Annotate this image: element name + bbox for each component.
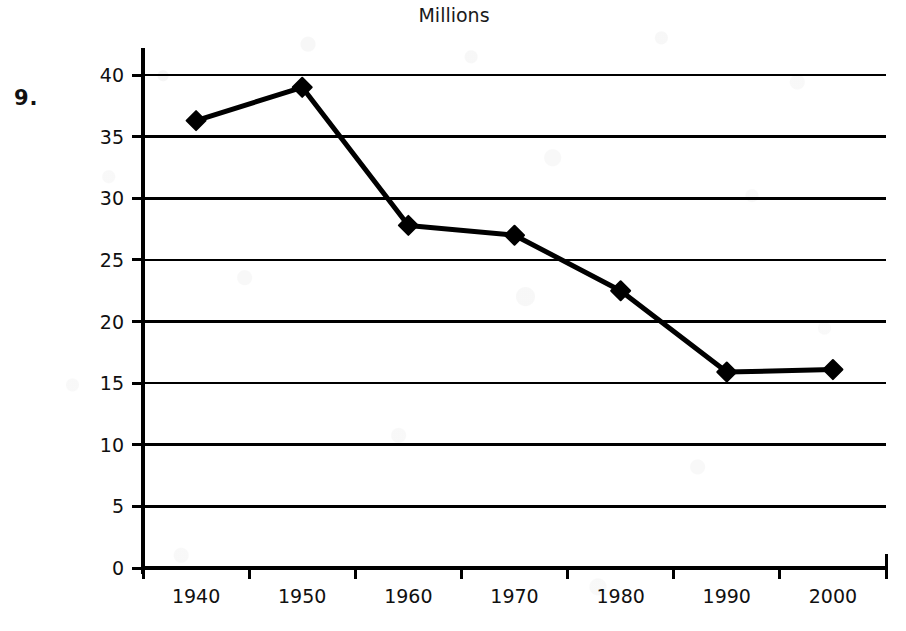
x-axis-tick-label: 1960: [363, 585, 453, 607]
x-axis-tick-label: 1940: [151, 585, 241, 607]
data-marker-1970: [505, 226, 524, 245]
y-axis-tick-label: 40: [78, 64, 124, 86]
x-axis-tick-label: 2000: [788, 585, 878, 607]
line-chart-figure: 0510152025303540 19401950196019701980199…: [0, 0, 906, 631]
data-marker-1940: [187, 111, 206, 130]
y-axis-tick-label: 0: [78, 557, 124, 579]
y-axis-tick-label: 25: [78, 249, 124, 271]
y-axis-tick-label: 15: [78, 372, 124, 394]
gridlines-group: [143, 75, 886, 568]
y-axis-tick-label: 5: [78, 495, 124, 517]
x-axis-tick-label: 1970: [470, 585, 560, 607]
y-axis-group: [132, 48, 143, 574]
y-axis-tick-label: 35: [78, 126, 124, 148]
data-marker-2000: [823, 360, 842, 379]
chart-plot-svg: [0, 0, 906, 631]
x-axis-tick-label: 1990: [682, 585, 772, 607]
x-axis-tick-label: 1980: [576, 585, 666, 607]
y-axis-tick-label: 20: [78, 311, 124, 333]
data-markers-group: [187, 78, 843, 382]
y-axis-tick-label: 30: [78, 187, 124, 209]
x-axis-tick-label: 1950: [257, 585, 347, 607]
y-axis-tick-label: 10: [78, 434, 124, 456]
